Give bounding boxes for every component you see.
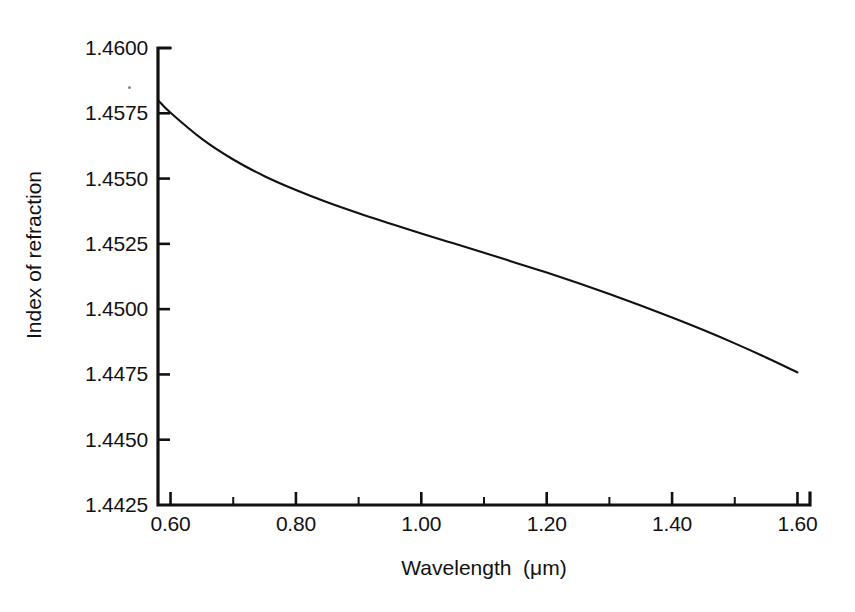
y-tick-label: 1.4500: [85, 297, 148, 321]
x-tick-label: 0.80: [276, 512, 316, 536]
x-axis-tick-marks: [171, 492, 798, 505]
x-tick-label: 1.40: [652, 512, 692, 536]
axes-and-series-svg: [158, 48, 810, 505]
axis-lines: [158, 48, 810, 505]
y-axis-title: Index of refraction: [22, 105, 46, 405]
y-tick-label: 1.4550: [85, 167, 148, 191]
data-series-line: [158, 100, 797, 372]
y-tick-label: 1.4575: [85, 101, 148, 125]
y-tick-label: 1.4475: [85, 362, 148, 386]
axis-frame-path: [158, 48, 810, 505]
x-tick-label: 1.20: [527, 512, 567, 536]
y-tick-label: 1.4525: [85, 232, 148, 256]
x-axis-title: Wavelength (μm): [158, 556, 810, 580]
plot-area: [158, 48, 810, 505]
x-tick-label: 1.00: [401, 512, 441, 536]
y-axis-tick-marks: [158, 113, 170, 439]
y-tick-label: 1.4450: [85, 428, 148, 452]
y-tick-label: 1.4600: [85, 36, 148, 60]
chart-figure: 1.44251.44501.44751.45001.45251.45501.45…: [0, 0, 855, 612]
x-tick-label: 0.60: [150, 512, 190, 536]
x-axis-tick-labels: 0.600.801.001.201.401.60: [0, 512, 855, 542]
x-tick-label: 1.60: [777, 512, 817, 536]
